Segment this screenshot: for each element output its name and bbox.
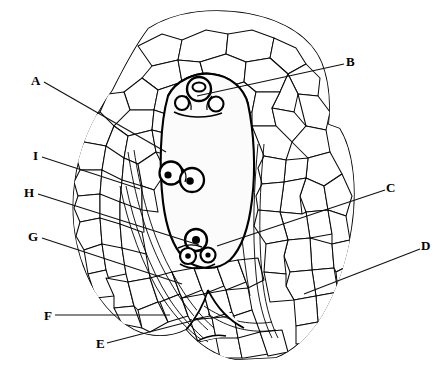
label-b: B (346, 55, 355, 68)
label-h: H (24, 186, 34, 199)
label-d: D (421, 239, 430, 252)
tissue-body (60, 0, 380, 369)
label-i: I (33, 149, 38, 162)
label-c: C (386, 181, 395, 194)
label-g: G (28, 230, 38, 243)
figure-container: A B I H C G D F E (0, 0, 447, 369)
label-a: A (31, 74, 40, 87)
label-e: E (96, 337, 105, 350)
botanical-diagram (0, 0, 447, 369)
label-f: F (44, 309, 52, 322)
